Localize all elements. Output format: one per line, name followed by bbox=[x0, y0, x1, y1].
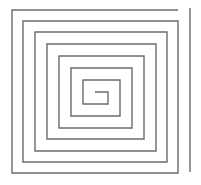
spiral-canvas bbox=[0, 0, 201, 185]
spiral-figure bbox=[0, 0, 201, 185]
